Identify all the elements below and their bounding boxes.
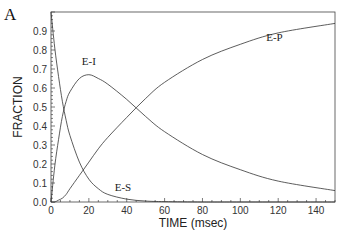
x-tick-label: 40 [121,205,133,216]
plot-frame [51,12,335,202]
y-tick-label: 0.8 [33,45,47,56]
x-tick-label: 120 [270,205,287,216]
x-tick-label: 0 [48,205,54,216]
y-tick-label: 0.7 [33,64,47,75]
y-axis-title: FRACTION [11,76,25,137]
y-tick-label: 0.6 [33,83,47,94]
x-tick-label: 100 [232,205,249,216]
chart: A 0204060801001201400.00.10.20.30.40.50.… [0,0,343,246]
x-tick-label: 20 [83,205,95,216]
y-tick-label: 0.9 [33,26,47,37]
series-e-i-label: E-I [82,55,96,67]
y-tick-label: 0.4 [33,121,47,132]
y-tick-label: 0.1 [33,178,47,189]
x-tick-label: 80 [197,205,209,216]
panel-label: A [4,5,17,24]
series-e-p-line [51,23,335,202]
y-tick-label: 0.3 [33,140,47,151]
series-e-s-label: E-S [115,181,132,193]
y-tick-label: 0.5 [33,102,47,113]
y-tick-label: 0.0 [33,197,47,208]
x-axis-title: TIME (msec) [159,216,228,230]
x-tick-label: 140 [308,205,325,216]
series-e-s-line [51,12,335,202]
x-tick-label: 60 [159,205,171,216]
series-e-p-label: E-P [266,31,283,43]
y-tick-label: 0.2 [33,159,47,170]
series-e-i-line [51,75,335,202]
